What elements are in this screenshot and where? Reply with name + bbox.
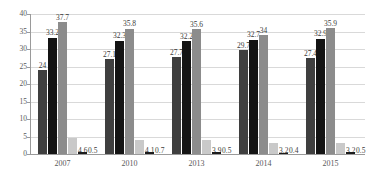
bar-group: 27.132.335.84.10.7 — [105, 14, 154, 154]
y-tick-label: 20 — [3, 80, 27, 88]
y-tick-label: 0 — [3, 150, 27, 158]
bar-group-bars: 2433.237.74.60.5 — [38, 14, 87, 154]
bar-value-label: 0.5 — [356, 147, 365, 155]
plot-area: 2433.237.74.60.527.132.335.84.10.727.732… — [30, 14, 365, 154]
y-axis-line — [30, 14, 31, 154]
y-tick-mark — [27, 67, 30, 68]
bar-series-1-2007: 24 — [38, 70, 47, 154]
y-tick-mark — [27, 14, 30, 15]
bar-group: 29.732.7343.20.4 — [239, 14, 288, 154]
y-tick-label: 10 — [3, 115, 27, 123]
bar-series-3-2013: 35.6 — [192, 29, 201, 154]
bar-series-3-2015: 35.9 — [326, 28, 335, 154]
y-tick-mark — [27, 102, 30, 103]
bar-group-bars: 27.132.335.84.10.7 — [105, 14, 154, 154]
bar-value-label: 0.7 — [155, 147, 164, 155]
x-tick-label-2010: 2010 — [122, 160, 138, 168]
bar-group: 27.432.935.93.20.5 — [306, 14, 355, 154]
y-tick-label: 40 — [3, 10, 27, 18]
x-tick-label-2014: 2014 — [256, 160, 272, 168]
y-tick-mark — [27, 154, 30, 155]
bar-group-bars: 27.432.935.93.20.5 — [306, 14, 355, 154]
bar-series-5-2013: 0.5 — [212, 152, 221, 154]
bar-series-4-2010: 4.1 — [135, 140, 144, 154]
y-tick-mark — [27, 49, 30, 50]
x-axis-tick-labels: 20072010201320142015 — [30, 160, 365, 174]
bar-series-2-2010: 32.3 — [115, 41, 124, 154]
bar-series-3-2010: 35.8 — [125, 29, 134, 154]
bar-series-5-2014: 0.4 — [279, 153, 288, 154]
bar-series-4-2007: 4.6 — [68, 138, 77, 154]
bar-value-label: 0.5 — [222, 147, 231, 155]
bar-group-bars: 29.732.7343.20.4 — [239, 14, 288, 154]
bar-series-5-2015: 0.5 — [346, 152, 355, 154]
bar-value-label: 0.4 — [289, 147, 298, 155]
bar-series-2-2007: 33.2 — [48, 38, 57, 154]
bar-group-bars: 27.732.235.63.90.5 — [172, 14, 221, 154]
bar-value-label: 35.9 — [324, 20, 337, 28]
bar-group: 2433.237.74.60.5 — [38, 14, 87, 154]
bar-value-label: 34 — [260, 27, 268, 35]
bar-series-4-2015: 3.2 — [336, 143, 345, 154]
y-tick-label: 35 — [3, 28, 27, 36]
bar-group: 27.732.235.63.90.5 — [172, 14, 221, 154]
bar-series-5-2007: 0.5 — [78, 152, 87, 154]
bar-series-1-2014: 29.7 — [239, 50, 248, 154]
bar-value-label: 35.8 — [123, 20, 136, 28]
y-tick-mark — [27, 32, 30, 33]
bar-value-label: 24 — [39, 62, 47, 70]
bar-series-3-2007: 37.7 — [58, 22, 67, 154]
bar-series-2-2014: 32.7 — [249, 40, 258, 154]
bar-series-5-2010: 0.7 — [145, 152, 154, 154]
bar-series-2-2015: 32.9 — [316, 39, 325, 154]
y-tick-label: 25 — [3, 63, 27, 71]
bar-value-label: 0.5 — [88, 147, 97, 155]
bar-series-4-2013: 3.9 — [202, 140, 211, 154]
x-tick-label-2013: 2013 — [189, 160, 205, 168]
y-tick-mark — [27, 84, 30, 85]
x-tick-label-2015: 2015 — [323, 160, 339, 168]
y-tick-label: 5 — [3, 133, 27, 141]
bar-series-1-2013: 27.7 — [172, 57, 181, 154]
bar-series-2-2013: 32.2 — [182, 41, 191, 154]
y-tick-mark — [27, 119, 30, 120]
bar-chart: 2433.237.74.60.527.132.335.84.10.727.732… — [0, 0, 371, 186]
y-axis-tick-labels: 0510152025303540 — [0, 14, 27, 154]
bar-series-1-2015: 27.4 — [306, 58, 315, 154]
y-tick-label: 30 — [3, 45, 27, 53]
bar-series-3-2014: 34 — [259, 35, 268, 154]
bar-series-4-2014: 3.2 — [269, 143, 278, 154]
y-tick-label: 15 — [3, 98, 27, 106]
bar-series-1-2010: 27.1 — [105, 59, 114, 154]
bar-value-label: 37.7 — [56, 14, 69, 22]
y-tick-mark — [27, 137, 30, 138]
x-tick-label-2007: 2007 — [55, 160, 71, 168]
bar-value-label: 35.6 — [190, 21, 203, 29]
